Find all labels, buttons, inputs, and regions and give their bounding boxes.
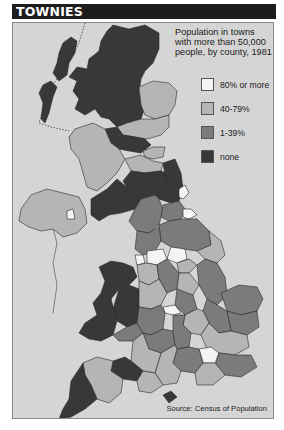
region-grampian xyxy=(139,81,177,119)
legend-label: 1-39% xyxy=(220,127,245,139)
region-cleveland xyxy=(183,209,197,219)
region-durham xyxy=(161,201,185,221)
swatch-1-39 xyxy=(201,126,214,139)
swatch-80-plus xyxy=(201,78,214,91)
region-isle-of-wight xyxy=(163,391,177,403)
legend-label: 40-79% xyxy=(220,103,250,115)
map-frame: Population in towns with more than 50,00… xyxy=(12,22,274,419)
legend-label: 80% or more xyxy=(220,79,269,91)
source-note: Source: Census of Population xyxy=(167,404,267,413)
region-north-yorkshire xyxy=(159,219,211,251)
title-bar: TOWNIES xyxy=(12,4,276,19)
legend-label: none xyxy=(220,151,239,163)
irish-border-line xyxy=(53,229,57,313)
swatch-none xyxy=(201,150,214,163)
map-title: TOWNIES xyxy=(16,4,83,19)
region-norfolk xyxy=(221,285,263,315)
map-subtitle: Population in towns with more than 50,00… xyxy=(175,27,273,57)
region-outer-hebrides-south xyxy=(39,81,57,123)
swatch-40-79 xyxy=(201,102,214,115)
